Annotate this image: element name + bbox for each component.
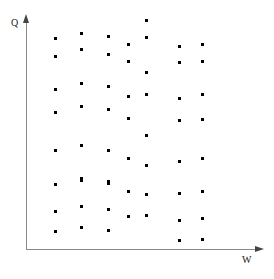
- data-point: [145, 71, 148, 74]
- data-point: [107, 182, 110, 185]
- data-point: [127, 95, 130, 98]
- data-point: [80, 32, 83, 35]
- data-point: [54, 149, 57, 152]
- data-point: [80, 226, 83, 229]
- data-point: [127, 157, 130, 160]
- scatter-plot-figure: Q W: [0, 0, 274, 279]
- data-point: [80, 82, 83, 85]
- data-point: [54, 183, 57, 186]
- data-point: [145, 93, 148, 96]
- data-point: [127, 60, 130, 63]
- data-point: [178, 192, 181, 195]
- data-point: [178, 97, 181, 100]
- data-point: [107, 229, 110, 232]
- data-point: [107, 35, 110, 38]
- data-point: [127, 215, 130, 218]
- data-point: [54, 88, 57, 91]
- data-point: [201, 93, 204, 96]
- data-point: [178, 160, 181, 163]
- data-point: [54, 210, 57, 213]
- data-point: [145, 36, 148, 39]
- data-point: [127, 190, 130, 193]
- data-point: [80, 144, 83, 147]
- data-point: [201, 60, 204, 63]
- data-point: [107, 53, 110, 56]
- data-points-layer: [0, 0, 274, 279]
- data-point: [201, 190, 204, 193]
- data-point: [80, 105, 83, 108]
- data-point: [201, 157, 204, 160]
- data-point: [54, 55, 57, 58]
- data-point: [145, 193, 148, 196]
- data-point: [178, 119, 181, 122]
- data-point: [145, 214, 148, 217]
- data-point: [201, 238, 204, 241]
- data-point: [127, 43, 130, 46]
- data-point: [178, 61, 181, 64]
- data-point: [107, 85, 110, 88]
- data-point: [54, 111, 57, 114]
- data-point: [107, 208, 110, 211]
- data-point: [201, 217, 204, 220]
- data-point: [107, 108, 110, 111]
- data-point: [54, 230, 57, 233]
- data-point: [127, 117, 130, 120]
- data-point: [107, 149, 110, 152]
- data-point: [201, 118, 204, 121]
- data-point: [80, 179, 83, 182]
- data-point: [178, 45, 181, 48]
- data-point: [145, 134, 148, 137]
- data-point: [178, 239, 181, 242]
- data-point: [145, 164, 148, 167]
- data-point: [54, 37, 57, 40]
- data-point: [80, 205, 83, 208]
- data-point: [80, 48, 83, 51]
- data-point: [145, 19, 148, 22]
- data-point: [178, 219, 181, 222]
- data-point: [201, 43, 204, 46]
